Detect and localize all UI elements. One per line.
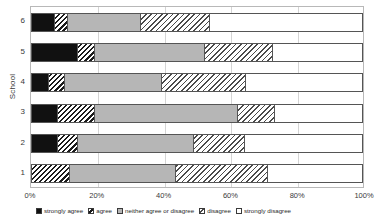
bar-segment-disagree <box>194 135 245 152</box>
bar-segment-neither-agree-or-disagree <box>68 14 141 31</box>
stacked-bar-school-6[interactable] <box>31 13 363 32</box>
y-tick-label-6: 6 <box>0 16 25 25</box>
stacked-bar-school-1[interactable] <box>31 164 363 183</box>
x-tick-label-20: 20% <box>77 191 117 200</box>
bar-segment-strongly-disagree <box>273 44 362 61</box>
bar-row <box>31 73 363 92</box>
legend-label: strongly agree <box>44 207 83 214</box>
bar-row <box>31 104 363 123</box>
bar-segment-strongly-agree <box>32 105 58 122</box>
legend-item[interactable]: agree <box>88 207 112 214</box>
bar-segment-disagree <box>141 14 210 31</box>
gridline-x-20 <box>98 7 99 187</box>
legend-item[interactable]: strongly disagree <box>236 207 291 214</box>
bar-row <box>31 134 363 153</box>
bar-segment-strongly-disagree <box>210 14 362 31</box>
x-tick-label-60: 60% <box>210 191 250 200</box>
stacked-bar-school-5[interactable] <box>31 43 363 62</box>
x-tick-label-100: 100% <box>344 191 377 200</box>
legend-label: disagree <box>207 207 231 214</box>
bar-segment-agree <box>32 165 70 182</box>
chart-legend: strongly agreeagreeneither agree or disa… <box>36 207 296 214</box>
bar-segment-agree <box>58 105 94 122</box>
stacked-bar-school-4[interactable] <box>31 73 363 92</box>
plot-area <box>30 6 364 188</box>
y-tick-label-1: 1 <box>0 168 25 177</box>
bar-segment-disagree <box>205 44 273 61</box>
gridline-x-80 <box>298 7 299 187</box>
bar-segment-strongly-disagree <box>275 105 362 122</box>
gridline-x-60 <box>231 7 232 187</box>
y-tick-label-3: 3 <box>0 107 25 116</box>
bar-row <box>31 43 363 62</box>
x-tick-label-40: 40% <box>144 191 184 200</box>
bar-segment-disagree <box>162 74 246 91</box>
gridline-x-40 <box>165 7 166 187</box>
legend-swatch-icon <box>236 208 242 214</box>
bar-row <box>31 13 363 32</box>
bar-segment-neither-agree-or-disagree <box>95 44 206 61</box>
bar-segment-neither-agree-or-disagree <box>95 105 239 122</box>
legend-item[interactable]: strongly agree <box>36 207 83 214</box>
x-tick-label-0: 0% <box>10 191 50 200</box>
x-tick-label-80: 80% <box>277 191 317 200</box>
legend-swatch-icon <box>36 208 42 214</box>
bar-segment-neither-agree-or-disagree <box>78 135 194 152</box>
y-tick-label-4: 4 <box>0 77 25 86</box>
legend-label: strongly disagree <box>244 207 291 214</box>
legend-item[interactable]: disagree <box>199 207 231 214</box>
stacked-bar-school-2[interactable] <box>31 134 363 153</box>
legend-swatch-icon <box>88 208 94 214</box>
bar-segment-neither-agree-or-disagree <box>70 165 176 182</box>
bar-segment-neither-agree-or-disagree <box>65 74 162 91</box>
legend-label: neither agree or disagree <box>125 207 194 214</box>
bar-segment-agree <box>49 74 66 91</box>
bar-segment-strongly-agree <box>32 14 55 31</box>
stacked-bar-chart: School 654321 0%20%40%60%80%100% strongl… <box>0 0 377 217</box>
bar-row <box>31 164 363 183</box>
bar-segment-strongly-agree <box>32 44 78 61</box>
legend-item[interactable]: neither agree or disagree <box>117 207 194 214</box>
bar-segment-strongly-disagree <box>246 74 362 91</box>
bar-segment-disagree <box>176 165 268 182</box>
y-tick-label-5: 5 <box>0 47 25 56</box>
bar-segment-agree <box>78 44 95 61</box>
bar-segment-agree <box>55 14 68 31</box>
bar-segment-disagree <box>238 105 274 122</box>
bar-segment-strongly-agree <box>32 135 58 152</box>
bar-segment-agree <box>58 135 78 152</box>
legend-swatch-icon <box>199 208 205 214</box>
bar-segment-strongly-disagree <box>268 165 362 182</box>
bar-segment-strongly-agree <box>32 74 49 91</box>
y-tick-label-2: 2 <box>0 138 25 147</box>
legend-label: agree <box>96 207 112 214</box>
legend-swatch-icon <box>117 208 123 214</box>
stacked-bar-school-3[interactable] <box>31 104 363 123</box>
bar-segment-strongly-disagree <box>245 135 362 152</box>
